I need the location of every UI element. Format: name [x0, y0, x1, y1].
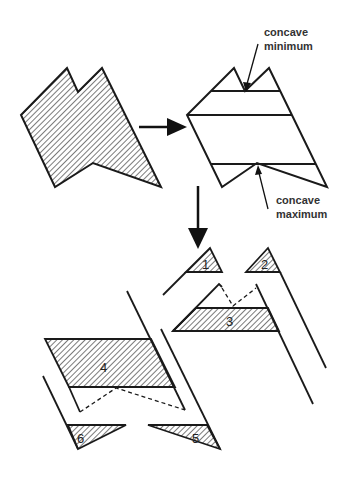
concave-maximum-label-line2: maximum [276, 208, 328, 220]
arrowhead-icon [255, 165, 262, 175]
down-arrow-icon [188, 186, 208, 249]
concave-minimum-label-line1: concave [264, 26, 308, 38]
region-4-label: 4 [100, 360, 107, 375]
concave-minimum-label-line2: minimum [264, 40, 313, 52]
region-3-label: 3 [226, 314, 233, 329]
region-1-label: 1 [202, 257, 209, 272]
region-5-label: 5 [192, 431, 199, 446]
diagram-canvas: concave minimum concave maximum 1 2 [0, 0, 349, 479]
right-arrow-icon [139, 118, 187, 136]
concave-maximum-annotation: concave maximum [255, 165, 328, 220]
region-2-label: 2 [261, 257, 268, 272]
region-5: 5 [148, 329, 220, 449]
region-1: 1 [163, 248, 222, 295]
region-6-label: 6 [77, 431, 84, 446]
region-4: 4 [45, 291, 185, 412]
concave-maximum-label-line1: concave [276, 194, 320, 206]
diagram-svg: concave minimum concave maximum 1 2 [0, 0, 349, 479]
region-3: 3 [173, 284, 313, 404]
